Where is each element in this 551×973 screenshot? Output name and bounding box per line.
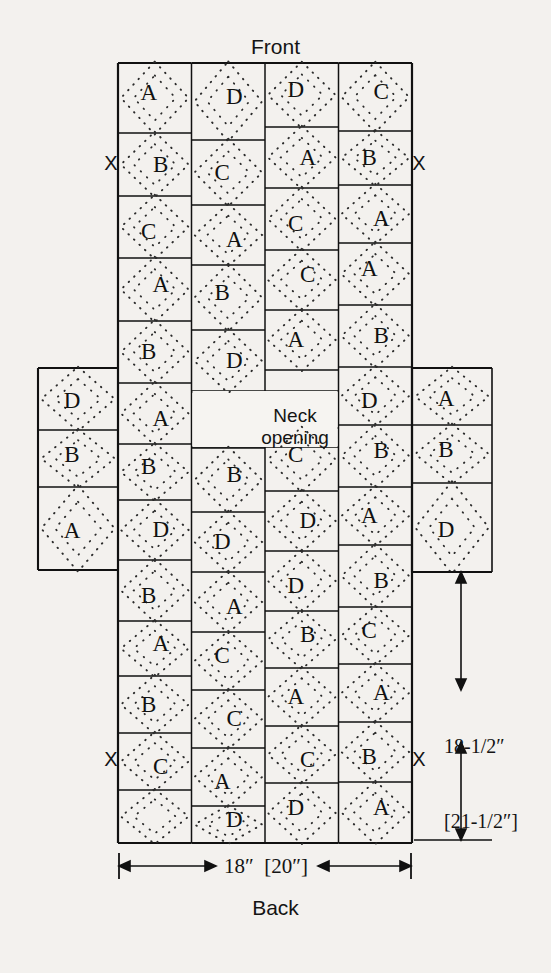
height-dimension-line2: [21-1/2″]: [444, 809, 518, 834]
grid-cell-letter: A: [287, 684, 304, 710]
grid-cell-letter: D: [287, 77, 304, 103]
grid-cell-letter: A: [152, 631, 169, 657]
grid-cell-letter: D: [299, 508, 316, 534]
grid-cell-letter: B: [374, 568, 389, 594]
grid-cell-letter: C: [374, 79, 389, 105]
grid-cell-letter: B: [300, 622, 315, 648]
grid-cell-letter: D: [287, 573, 304, 599]
grid-cell-letter: A: [373, 680, 390, 706]
grid-cell-letter: C: [300, 747, 315, 773]
grid-cell-letter: C: [288, 211, 303, 237]
height-dimension-label: 18-1/2″ [21-1/2″]: [444, 684, 518, 884]
grid-cell-letter: C: [153, 754, 168, 780]
grid-cell-letter: A: [299, 145, 316, 171]
grid-cell-letter: D: [361, 388, 378, 414]
grid-cell-letter: B: [141, 454, 156, 480]
left-sleeve-letter: A: [64, 518, 81, 544]
grid-cell-letter: A: [152, 272, 169, 298]
grid-cell-letter: A: [373, 795, 390, 821]
grid-cell-letter: A: [287, 327, 304, 353]
grid-cell-letter: B: [141, 339, 156, 365]
neck-opening-label: Neck opening: [236, 405, 354, 450]
grid-cell-letter: A: [226, 594, 243, 620]
grid-cell-letter: C: [362, 618, 377, 644]
grid-cell-letter: B: [227, 462, 242, 488]
grid-cell-letter: C: [227, 706, 242, 732]
grid-cell-letter: C: [300, 262, 315, 288]
grid-cell-letter: D: [226, 348, 243, 374]
x-alignment-marker: X: [412, 748, 425, 771]
right-sleeve-letter: B: [438, 437, 453, 463]
grid-cell-letter: B: [153, 152, 168, 178]
grid-cell-letter: D: [214, 529, 231, 555]
grid-cell-letter: B: [374, 438, 389, 464]
grid-cell-letter: C: [215, 160, 230, 186]
grid-cell-letter: A: [140, 80, 157, 106]
neck-label-line1: Neck: [236, 405, 354, 427]
left-sleeve-letter: D: [64, 388, 81, 414]
neck-label-line2: opening: [236, 427, 354, 449]
grid-cell-letter: B: [141, 583, 156, 609]
grid-cell-letter: C: [141, 219, 156, 245]
grid-cell-letter: B: [362, 145, 377, 171]
grid-cell-letter: D: [226, 807, 243, 833]
grid-cell-letter: A: [361, 256, 378, 282]
x-alignment-marker: X: [104, 748, 117, 771]
grid-cell-letter: B: [362, 744, 377, 770]
schematic-canvas: Front ABCABABDBABCDCABDBDACCADDACCACDDBA…: [0, 0, 551, 973]
grid-cell-letter: A: [226, 227, 243, 253]
x-alignment-marker: X: [104, 152, 117, 175]
grid-cell-letter: C: [215, 643, 230, 669]
grid-cell-letter: B: [141, 692, 156, 718]
grid-cell-letter: A: [361, 503, 378, 529]
back-label: Back: [0, 897, 551, 919]
grid-cell-letter: D: [287, 795, 304, 821]
left-sleeve-letter: B: [64, 442, 79, 468]
grid-cell-letter: A: [152, 406, 169, 432]
right-sleeve-letter: D: [438, 517, 455, 543]
grid-cell-letter: A: [214, 769, 231, 795]
x-alignment-marker: X: [412, 152, 425, 175]
right-sleeve-letter: A: [438, 386, 455, 412]
grid-cell-letter: B: [374, 323, 389, 349]
grid-cell-letter: A: [373, 206, 390, 232]
grid-cell-letter: D: [226, 84, 243, 110]
grid-cell-letter: B: [215, 280, 230, 306]
grid-cell-letter: D: [152, 517, 169, 543]
width-dimension-label: 18″ [20″]: [224, 854, 308, 879]
height-dimension-line1: 18-1/2″: [444, 734, 518, 759]
